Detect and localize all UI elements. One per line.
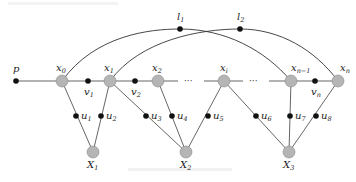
label-l2: l2 — [237, 11, 244, 24]
node-x2 — [152, 75, 164, 87]
ellipsis-2: ··· — [249, 76, 258, 86]
label-X3: X3 — [282, 159, 294, 172]
label-u2: u2 — [106, 110, 117, 123]
label-u6: u6 — [261, 110, 272, 123]
label-vn: vn — [311, 86, 321, 99]
label-p: p — [13, 63, 20, 74]
label-xn-1: xn−1 — [291, 62, 310, 75]
node-v1 — [85, 78, 91, 84]
label-xn: xn — [340, 62, 350, 75]
node-l2 — [237, 26, 243, 32]
node-u6 — [253, 113, 259, 119]
node-xi — [218, 75, 230, 87]
label-l1: l1 — [177, 11, 184, 24]
label-xi: xi — [220, 62, 228, 75]
node-X2 — [180, 146, 192, 158]
node-u5 — [205, 113, 211, 119]
label-u8: u8 — [321, 110, 332, 123]
node-u3 — [143, 113, 149, 119]
node-X1 — [87, 146, 99, 158]
node-u4 — [169, 113, 175, 119]
graph-diagram: ··· ··· p x0 x1 x2 xi xn−1 xn v1 v2 vn l… — [0, 0, 356, 182]
node-x0 — [56, 75, 68, 87]
node-u8 — [313, 113, 319, 119]
label-u5: u5 — [213, 110, 224, 123]
node-p — [13, 78, 19, 84]
top-caption-fragment — [8, 2, 118, 5]
node-x1 — [104, 75, 116, 87]
label-x1: x1 — [104, 62, 114, 75]
label-x0: x0 — [56, 62, 66, 75]
label-v2: v2 — [131, 86, 141, 99]
node-u1 — [73, 113, 79, 119]
label-X1: X1 — [86, 159, 98, 172]
node-u7 — [287, 113, 293, 119]
label-u4: u4 — [177, 110, 188, 123]
node-xn-1 — [285, 75, 297, 87]
arc-x0-l1-xn1 — [62, 29, 291, 81]
label-u1: u1 — [81, 110, 92, 123]
node-l1 — [177, 26, 183, 32]
node-vn — [312, 78, 318, 84]
label-x2: x2 — [152, 62, 162, 75]
ellipsis-1: ··· — [184, 76, 193, 86]
node-xn — [332, 75, 344, 87]
node-v2 — [132, 78, 138, 84]
label-v1: v1 — [84, 86, 94, 99]
node-X3 — [283, 146, 295, 158]
node-u2 — [98, 113, 104, 119]
label-u7: u7 — [295, 110, 306, 123]
